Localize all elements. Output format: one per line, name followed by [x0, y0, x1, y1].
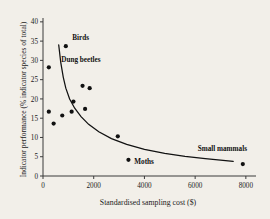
y-tick-label: 25	[31, 76, 39, 84]
x-tick-label: 2000	[87, 182, 102, 190]
y-tick-label: 15	[31, 115, 39, 123]
x-axis-title: Standardised sampling cost ($)	[43, 198, 253, 207]
data-point	[241, 162, 245, 166]
y-tick-label: 20	[31, 96, 39, 104]
data-point	[60, 113, 64, 117]
annotations-group: BirdsDung beetlesMothsSmall mammals	[61, 34, 247, 166]
x-tick-label: 4000	[137, 182, 152, 190]
data-point	[83, 107, 87, 111]
data-point	[47, 65, 51, 69]
x-tick-label: 0	[41, 182, 45, 190]
data-point	[47, 110, 51, 114]
y-tick-label: 10	[31, 134, 39, 142]
annotation-label: Dung beetles	[61, 56, 101, 64]
data-point	[116, 134, 120, 138]
y-tick-label: 40	[31, 18, 39, 26]
data-point	[70, 110, 74, 114]
annotation-label: Birds	[72, 34, 89, 42]
x-tick-label: 8000	[239, 182, 254, 190]
y-tick-label: 5	[34, 153, 38, 161]
x-axis-ticks: 02000400060008000	[41, 176, 253, 190]
data-point	[52, 121, 56, 125]
figure-container: Indicator performance (% indicator speci…	[0, 0, 270, 219]
data-point	[64, 44, 68, 48]
scatter-plot: 0510152025303540 02000400060008000 Birds…	[0, 0, 270, 219]
y-tick-label: 35	[31, 38, 39, 46]
x-tick-label: 6000	[188, 182, 203, 190]
y-tick-label: 30	[31, 57, 39, 65]
annotation-label: Moths	[134, 158, 154, 166]
data-point	[126, 158, 130, 162]
y-axis-ticks: 0510152025303540	[31, 18, 43, 180]
annotation-label: Small mammals	[198, 145, 248, 153]
data-point	[80, 84, 84, 88]
data-point	[88, 86, 92, 90]
data-point	[71, 100, 75, 104]
y-tick-label: 0	[34, 173, 38, 181]
